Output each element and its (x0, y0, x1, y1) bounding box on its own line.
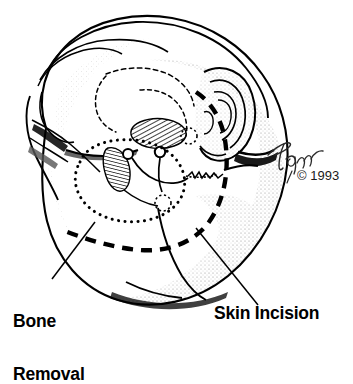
bone-strut-2 (159, 158, 162, 192)
burr-hole-2 (155, 147, 165, 157)
bone-removal-label: Bone Removal (13, 277, 85, 384)
hidden-structure-outline-upper (106, 68, 194, 106)
bone-removal-label-line2: Removal (13, 366, 85, 384)
burr-hole-1 (123, 149, 133, 159)
skull-shading-group (27, 16, 288, 309)
suture-serrated-right (224, 165, 258, 170)
bone-removal-label-line1: Bone (13, 313, 85, 331)
skin-incision-label: Skin Incision (214, 305, 319, 323)
hidden-structure-outline-left (95, 76, 116, 132)
copyright-notice: © 1993 (297, 168, 339, 183)
hatched-bone-region (131, 119, 186, 149)
bone-strut-3 (124, 190, 158, 206)
